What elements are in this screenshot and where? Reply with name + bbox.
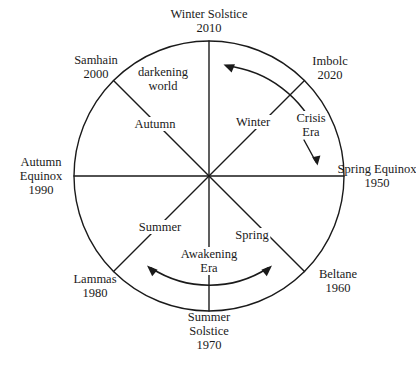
- awakening-era-arrowhead-left: [147, 266, 158, 277]
- outer-label-samhain: Samhain 2000: [74, 53, 118, 81]
- spring-equinox-name-line1: Spring Equinox: [338, 162, 416, 176]
- inner-label-winter: Winter: [234, 115, 272, 129]
- outer-label-beltane: Beltane 1960: [319, 267, 357, 295]
- summer-solstice-year: 1970: [188, 338, 230, 352]
- beltane-year: 1960: [319, 281, 357, 295]
- spring-equinox-year: 1950: [338, 176, 416, 190]
- outer-label-spring-equinox: Spring Equinox 1950: [338, 162, 416, 190]
- awakening-era-arrowhead-right: [261, 266, 272, 277]
- lammas-year: 1980: [73, 286, 116, 300]
- annotation-crisis-era: Crisis Era: [295, 111, 326, 139]
- outer-label-autumn-equinox: Autumn Equinox 1990: [20, 155, 62, 197]
- awakening-era-line1: Awakening: [181, 247, 237, 261]
- crisis-era-line1: Crisis: [296, 111, 325, 125]
- autumn-equinox-name-line1: Autumn: [20, 155, 62, 169]
- samhain-name: Samhain: [74, 53, 118, 67]
- summer-solstice-name-line1: Summer: [188, 310, 230, 324]
- winter-solstice-year: 2010: [171, 21, 248, 35]
- outer-label-lammas: Lammas 1980: [73, 272, 116, 300]
- imbolc-name: Imbolc: [312, 54, 347, 68]
- winter-solstice-name: Winter Solstice: [171, 7, 248, 21]
- lammas-name: Lammas: [73, 272, 116, 286]
- outer-label-winter-solstice: Winter Solstice 2010: [171, 7, 248, 35]
- samhain-year: 2000: [74, 67, 118, 81]
- summer-solstice-name-line2: Solstice: [188, 324, 230, 338]
- inner-label-summer: Summer: [137, 220, 183, 234]
- beltane-name: Beltane: [319, 267, 357, 281]
- darkening-world-line1: darkening: [138, 65, 188, 79]
- inner-label-spring: Spring: [233, 228, 270, 242]
- annotation-darkening-world: darkening world: [138, 65, 188, 93]
- inner-label-autumn: Autumn: [133, 117, 178, 131]
- awakening-era-line2: Era: [181, 261, 237, 275]
- autumn-equinox-year: 1990: [20, 183, 62, 197]
- annotation-awakening-era: Awakening Era: [180, 247, 238, 275]
- autumn-equinox-name-line2: Equinox: [20, 169, 62, 183]
- crisis-era-line2: Era: [296, 125, 325, 139]
- imbolc-year: 2020: [312, 68, 347, 82]
- crisis-era-arrowhead: [224, 64, 236, 72]
- outer-label-summer-solstice: Summer Solstice 1970: [188, 310, 230, 352]
- outer-label-imbolc: Imbolc 2020: [312, 54, 347, 82]
- crisis-era-pointer-arrowhead: [312, 156, 320, 166]
- darkening-world-line2: world: [138, 79, 188, 93]
